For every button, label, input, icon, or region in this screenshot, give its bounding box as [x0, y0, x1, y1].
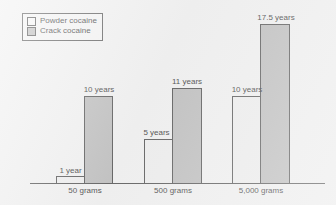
- bar-value-crack-5000g: 17.5 years: [247, 13, 305, 22]
- legend-item-powder-cocaine: Powder cocaine: [27, 17, 97, 26]
- bar-value-powder-500g: 5 years: [134, 128, 179, 137]
- legend-swatch-icon-crack: [27, 27, 36, 36]
- bar-value-crack-50g: 10 years: [74, 85, 124, 94]
- legend: Powder cocaine Crack cocaine: [22, 13, 103, 41]
- x-axis-line: [30, 183, 325, 184]
- bar-powder-500g: [144, 139, 173, 184]
- bar-value-powder-5000g: 10 years: [222, 85, 272, 94]
- legend-swatch-icon-powder: [27, 17, 36, 26]
- category-label-50-grams: 50 grams: [56, 186, 114, 195]
- bar-powder-5000g: [232, 96, 261, 184]
- bar-value-powder-50g: 1 year: [48, 166, 93, 175]
- category-label-500-grams: 500 grams: [144, 186, 202, 195]
- legend-item-crack-cocaine: Crack cocaine: [27, 27, 97, 36]
- legend-label-crack: Crack cocaine: [40, 27, 91, 35]
- bar-crack-5000g: [260, 24, 290, 184]
- bar-value-crack-500g: 11 years: [162, 77, 212, 86]
- category-label-5000-grams: 5,000 grams: [229, 186, 293, 195]
- bar-chart: 1 year 10 years 5 years 11 years 10 year…: [0, 0, 336, 205]
- legend-label-powder: Powder cocaine: [40, 17, 97, 25]
